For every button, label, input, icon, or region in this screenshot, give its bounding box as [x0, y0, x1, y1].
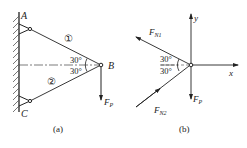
label-member-1: ①	[64, 33, 73, 44]
label-c: C	[21, 108, 28, 119]
label-angle-upper-a: 30°	[70, 55, 82, 65]
label-force-p-b: FP	[192, 94, 203, 105]
caption-b: (b)	[179, 124, 190, 134]
figure-a: A ① 30° 30° B ② C FP (a)	[13, 10, 114, 134]
member-2-line	[31, 66, 100, 101]
label-angle-lower-b: 30°	[160, 66, 172, 76]
label-a: A	[20, 10, 28, 21]
pin-support-c	[19, 96, 32, 106]
joint-b-origin	[189, 63, 193, 67]
truss-diagram: A ① 30° 30° B ② C FP (a) y x FN1 FN2 FP …	[0, 0, 247, 148]
label-y-axis: y	[193, 13, 198, 23]
label-b: B	[108, 60, 114, 71]
label-angle-lower-a: 30°	[70, 66, 82, 76]
label-force-n1: FN1	[148, 27, 162, 38]
label-angle-upper-b: 30°	[160, 54, 172, 64]
label-x-axis: x	[228, 68, 233, 78]
pin-support-a	[19, 24, 32, 34]
label-force-p-a: FP	[103, 97, 114, 108]
label-member-2: ②	[47, 76, 56, 87]
joint-b	[99, 63, 103, 67]
figure-b: y x FN1 FN2 FP 30° 30° (b)	[136, 13, 238, 134]
label-force-n2: FN2	[153, 105, 167, 116]
caption-a: (a)	[53, 124, 63, 134]
wall-support	[13, 12, 19, 112]
